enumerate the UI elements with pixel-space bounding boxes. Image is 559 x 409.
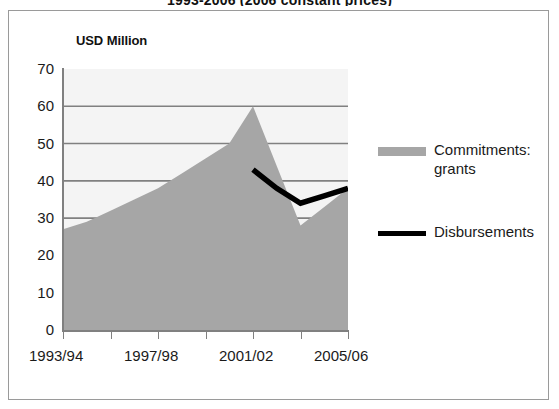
- y-axis-tick-label: 20: [14, 247, 54, 262]
- legend-label-disbursements: Disbursements: [434, 222, 544, 241]
- x-axis-tick-label: 1997/98: [124, 347, 178, 364]
- legend-label-commitments-grants: Commitments: grants: [434, 140, 544, 178]
- x-axis-tick: [206, 332, 207, 339]
- y-axis-tick-label: 10: [14, 285, 54, 300]
- x-axis-tick: [301, 332, 302, 339]
- y-axis-tick-label: 40: [14, 173, 54, 188]
- y-axis-tick-label: 70: [14, 61, 54, 76]
- y-axis-tick-label: 60: [14, 98, 54, 113]
- x-axis-tick: [253, 332, 254, 339]
- plot-area: [63, 69, 348, 330]
- chart-title: 1993-2006 (2006 constant prices): [0, 0, 559, 6]
- x-axis-tick: [158, 332, 159, 339]
- y-axis-line: [62, 68, 64, 331]
- x-axis-tick-label: 2001/02: [219, 347, 273, 364]
- y-axis-tick-label: 50: [14, 136, 54, 151]
- x-axis-tick-label: 2005/06: [314, 347, 368, 364]
- x-axis-tick-label: 1993/94: [29, 347, 83, 364]
- x-axis-tick: [348, 332, 349, 339]
- x-axis-tick: [111, 332, 112, 339]
- chart-canvas: [63, 69, 348, 330]
- y-axis-unit-label: USD Million: [76, 33, 147, 48]
- y-axis-tick-label: 0: [14, 322, 54, 337]
- x-axis-tick: [63, 332, 64, 339]
- legend-area-swatch-icon: [378, 147, 426, 156]
- y-axis-tick-label: 30: [14, 210, 54, 225]
- legend-line-swatch-icon: [378, 231, 426, 236]
